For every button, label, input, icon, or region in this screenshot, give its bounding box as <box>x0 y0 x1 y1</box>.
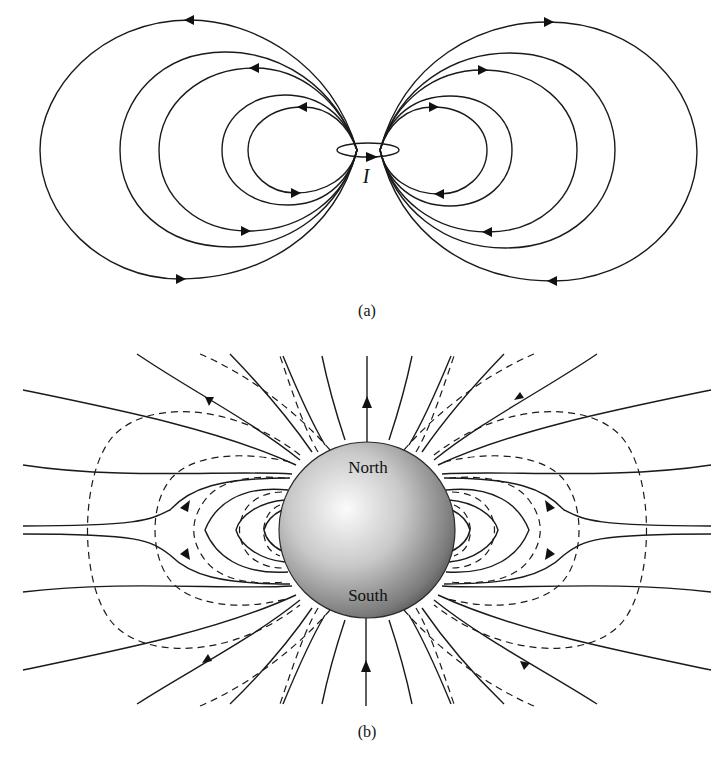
arrow-icon <box>180 548 190 560</box>
arrow-up-icon <box>361 660 371 672</box>
arrow-icon <box>202 654 212 663</box>
field-loop <box>380 96 512 206</box>
field-loop <box>159 68 357 231</box>
left-field-loops <box>40 20 357 279</box>
arrow-right-icon <box>429 102 439 112</box>
panel-a: I (a) <box>40 15 697 320</box>
field-loop <box>380 107 487 194</box>
arrow-right-icon <box>544 17 554 27</box>
current-label: I <box>362 165 371 187</box>
arrow-right-icon <box>291 188 301 198</box>
arrow-icon <box>514 392 524 400</box>
south-label: South <box>348 586 388 605</box>
arrow-icon <box>545 500 555 512</box>
field-loop <box>380 70 577 232</box>
arrow-left-icon <box>547 276 557 286</box>
current-arrow-icon <box>366 152 378 162</box>
arrow-icon <box>545 548 555 560</box>
figure-canvas: I (a) <box>0 0 727 760</box>
arrow-up-icon <box>362 396 372 408</box>
field-loop <box>40 20 357 279</box>
north-label: North <box>348 458 388 477</box>
arrow-left-icon <box>482 227 492 237</box>
arrow-left-icon <box>249 63 259 73</box>
arrow-right-icon <box>176 274 186 284</box>
panel-b: North South (b) <box>23 354 711 741</box>
arrow-icon <box>180 500 190 512</box>
panel-a-caption: (a) <box>358 302 376 320</box>
arrow-left-icon <box>297 102 307 112</box>
arrow-left-icon <box>434 189 444 199</box>
field-direction-arrows <box>176 15 557 286</box>
panel-b-caption: (b) <box>358 723 377 741</box>
arrow-right-icon <box>241 226 251 236</box>
right-field-loops <box>380 22 697 281</box>
field-loop <box>380 22 697 281</box>
arrow-right-icon <box>478 65 488 75</box>
arrow-left-icon <box>184 15 194 25</box>
